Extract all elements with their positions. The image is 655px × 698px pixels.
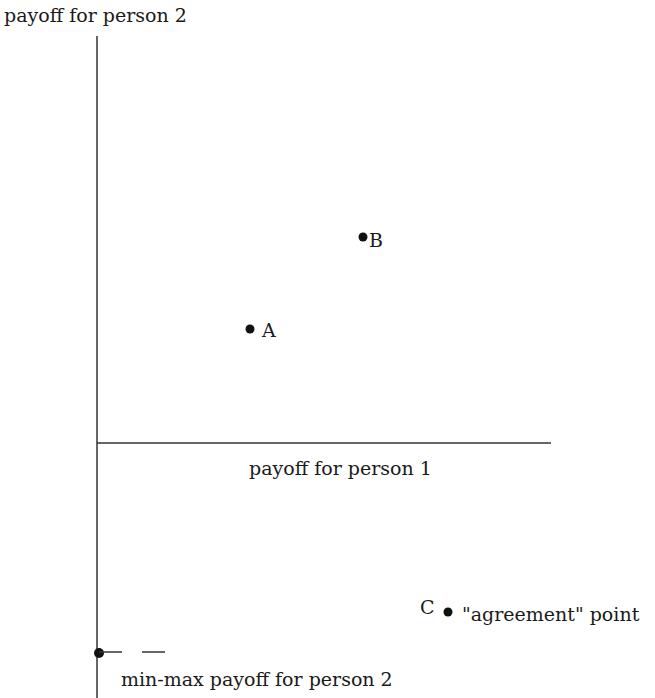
point-a-marker [246, 325, 255, 334]
point-b-label: B [369, 231, 383, 250]
y-axis-label: payoff for person 2 [4, 6, 187, 25]
minmax-marker [94, 648, 104, 658]
x-axis-label: payoff for person 1 [249, 459, 432, 478]
point-c-label: C [420, 598, 435, 617]
minmax-label: min-max payoff for person 2 [121, 670, 393, 689]
point-c-marker [444, 608, 453, 617]
point-b-marker [359, 233, 368, 242]
payoff-diagram [0, 0, 655, 698]
point-a-label: A [262, 321, 276, 340]
agreement-point-label: "agreement" point [462, 605, 639, 624]
